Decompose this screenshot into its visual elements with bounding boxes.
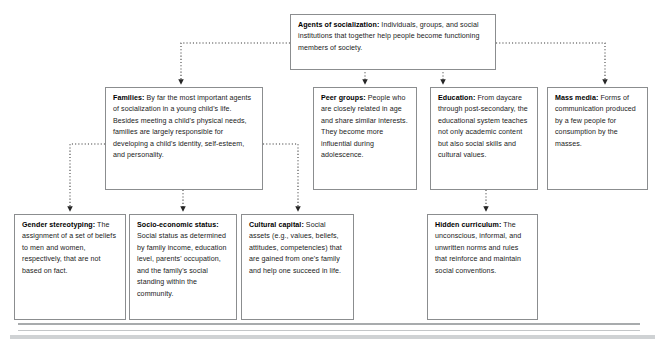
node-term: Peer groups: bbox=[321, 94, 366, 102]
node-body: Social assets (e.g., values, beliefs, at… bbox=[249, 221, 342, 275]
node-education[interactable]: Education: From daycare through post-sec… bbox=[430, 87, 538, 190]
node-hidden-curriculum[interactable]: Hidden curriculum: The unconscious, info… bbox=[427, 214, 538, 320]
node-term: Families: bbox=[113, 94, 144, 102]
node-body: From daycare through post-secondary, the… bbox=[438, 94, 528, 159]
diagram-canvas: Agents of socialization: Individuals, gr… bbox=[0, 0, 663, 345]
footer-rule-top bbox=[18, 323, 640, 325]
node-body: Social status as determined by family in… bbox=[137, 232, 226, 297]
node-body: The assignment of a set of beliefs to me… bbox=[22, 221, 116, 275]
node-mass-media[interactable]: Mass media: Forms of communication produ… bbox=[547, 87, 648, 190]
node-peer-groups[interactable]: Peer groups: People who are closely rela… bbox=[313, 87, 417, 190]
node-body: By far the most important agents of soci… bbox=[113, 94, 251, 159]
node-term: Socio-economic status: bbox=[137, 221, 219, 229]
edge-agents-to-families bbox=[181, 43, 290, 84]
node-term: Hidden curriculum: bbox=[435, 221, 501, 229]
node-body: The unconscious, informal, and unwritten… bbox=[435, 221, 521, 275]
node-families[interactable]: Families: By far the most important agen… bbox=[105, 87, 263, 190]
node-term: Agents of socialization: bbox=[298, 21, 379, 29]
node-term: Gender stereotyping: bbox=[22, 221, 95, 229]
edge-families-to-cultural-capital bbox=[263, 144, 298, 211]
node-term: Education: bbox=[438, 94, 475, 102]
footer-rule-middle bbox=[18, 330, 640, 331]
edge-agents-to-mass-media bbox=[496, 43, 605, 84]
node-agents-of-socialization[interactable]: Agents of socialization: Individuals, gr… bbox=[290, 14, 496, 70]
footer-rule-bottom bbox=[10, 335, 655, 339]
node-socio-economic-status[interactable]: Socio-economic status: Social status as … bbox=[129, 214, 237, 320]
edge-families-to-gender-stereotyping bbox=[70, 144, 105, 211]
node-gender-stereotyping[interactable]: Gender stereotyping: The assignment of a… bbox=[14, 214, 126, 320]
node-term: Cultural capital: bbox=[249, 221, 304, 229]
node-body: People who are closely related in age an… bbox=[321, 94, 408, 159]
node-body: Forms of communication produced by a few… bbox=[555, 94, 636, 148]
node-term: Mass media: bbox=[555, 94, 598, 102]
node-cultural-capital[interactable]: Cultural capital: Social assets (e.g., v… bbox=[241, 214, 354, 320]
